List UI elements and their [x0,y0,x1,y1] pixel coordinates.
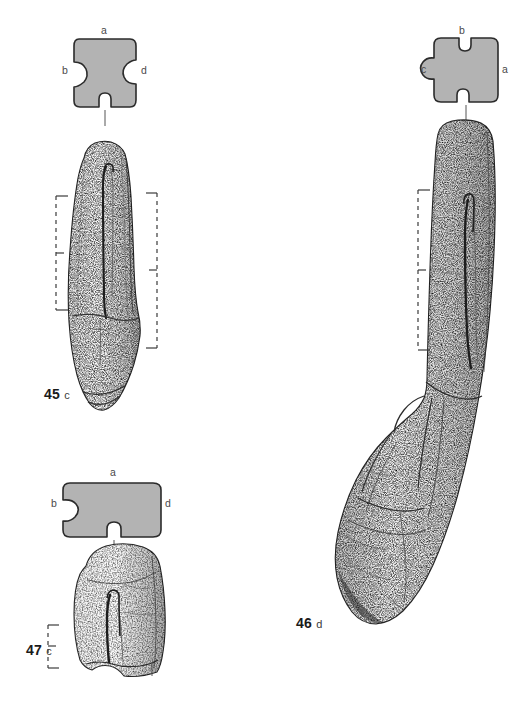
figure-45-group [56,39,157,410]
section-label-47-d: d [165,497,171,509]
artefact-45-drawing [68,141,140,410]
section-label-47-b: b [51,497,57,509]
section-label-45-d: d [141,64,147,76]
figure-47-group [48,483,165,677]
figure-number-46: 46 [296,615,312,631]
cross-section-46 [421,38,499,102]
figure-number-47: 47 [26,642,42,658]
section-label-45-a: a [101,24,107,36]
section-label-45-b: b [62,64,68,76]
artefact-46-drawing [335,120,495,624]
figure-view-47: c [46,645,52,657]
bracket-45-left [56,196,68,310]
section-label-47-a: a [110,466,116,478]
artefact-47-drawing [74,544,165,677]
figure-caption-45: 45c [44,385,70,403]
bracket-45-right [146,193,157,348]
section-label-46-c: c [421,63,426,75]
figure-46-group [335,38,498,624]
section-label-46-a: a [502,63,508,75]
figure-caption-46: 46d [296,614,322,632]
figure-view-46: d [316,618,322,630]
cross-section-45 [74,39,136,107]
illustration-plate: a b d b c a a b d 45c 46d 47c [0,0,529,716]
figure-number-45: 45 [44,386,60,402]
figure-caption-47: 47c [26,641,52,659]
cross-section-47 [63,483,161,537]
figure-view-45: c [64,389,70,401]
section-label-46-b: b [459,24,465,36]
plate-artwork [0,0,529,716]
